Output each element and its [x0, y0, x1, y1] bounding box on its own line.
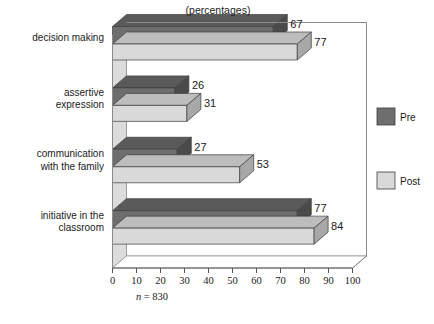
value-label-pre-3: 77: [314, 202, 326, 214]
x-tick-label-90: 90: [323, 275, 334, 286]
category-label-line-2-1: with the family: [40, 161, 104, 172]
x-tick-label-40: 40: [203, 275, 214, 286]
bar-top-face: [113, 32, 312, 44]
bar-front-face: [113, 228, 315, 244]
bar-chart-3d: 0102030405060708090100 6777263127537784d…: [0, 0, 434, 324]
x-tick-label-100: 100: [345, 275, 361, 286]
legend-label-pre: Pre: [400, 112, 416, 123]
bar-post-3: [113, 216, 329, 244]
legend-swatch-pre: [377, 108, 395, 125]
legend-item-pre[interactable]: Pre: [377, 108, 416, 125]
bar-front-face: [113, 105, 187, 121]
x-tick-label-50: 50: [227, 275, 238, 286]
category-label-line-0-0: decision making: [32, 32, 104, 43]
legend-label-post: Post: [400, 176, 420, 187]
sample-size-note: n = 830: [136, 291, 168, 302]
value-label-post-2: 53: [257, 158, 269, 170]
x-tick-label-20: 20: [155, 275, 166, 286]
x-tick-label-10: 10: [131, 275, 142, 286]
x-tick-label-0: 0: [110, 275, 115, 286]
legend-swatch-post: [377, 172, 395, 189]
category-label-line-1-0: assertive: [64, 87, 104, 98]
floor-plane: [113, 256, 367, 268]
bar-post-0: [113, 32, 312, 60]
x-tick-label-80: 80: [299, 275, 310, 286]
value-label-post-3: 84: [331, 220, 343, 232]
x-tick-label-70: 70: [275, 275, 286, 286]
legend-item-post[interactable]: Post: [377, 172, 420, 189]
bar-top-face: [113, 155, 254, 167]
value-label-post-0: 77: [314, 36, 326, 48]
bar-post-2: [113, 155, 254, 183]
value-label-pre-1: 26: [192, 79, 204, 91]
value-label-pre-0: 67: [290, 18, 302, 30]
category-label-line-3-1: classroom: [58, 222, 104, 233]
bar-front-face: [113, 44, 298, 60]
value-label-post-1: 31: [204, 97, 216, 109]
chart-screenshot: 0102030405060708090100 6777263127537784d…: [0, 0, 434, 324]
bar-top-face: [113, 93, 201, 105]
bar-top-face: [113, 15, 288, 27]
x-tick-label-30: 30: [179, 275, 190, 286]
chart-title-text: (percentages): [186, 4, 251, 16]
category-label-line-3-0: initiative in the: [41, 210, 105, 221]
bar-post-1: [113, 93, 201, 121]
bar-front-face: [113, 167, 240, 183]
category-label-line-2-0: communication: [37, 148, 104, 159]
x-tick-label-60: 60: [251, 275, 262, 286]
category-label-line-1-1: expression: [56, 99, 104, 110]
value-label-pre-2: 27: [194, 141, 206, 153]
bar-top-face: [113, 216, 329, 228]
bar-top-face: [113, 199, 312, 211]
legend-layer: PrePost: [377, 108, 420, 189]
